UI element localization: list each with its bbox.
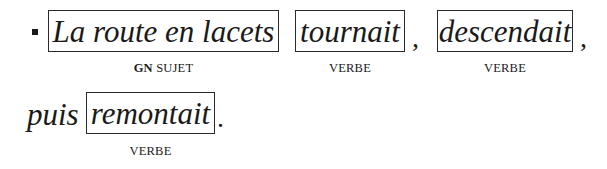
verb-box-remontait: remontait (86, 92, 215, 134)
square-bullet-icon (32, 29, 38, 35)
subject-label: GN SUJET (48, 62, 279, 75)
verb-box-descendait: descendait (437, 10, 573, 52)
verb-label: VERBE (86, 145, 215, 158)
verb-text: remontait (91, 98, 210, 129)
verb-text: tournait (300, 16, 400, 47)
verb-label: VERBE (295, 62, 405, 75)
verb-box-tournait: tournait (295, 10, 405, 52)
verb-label: VERBE (437, 62, 573, 75)
comma: , (580, 24, 587, 52)
subject-text: La route en lacets (53, 16, 275, 47)
subject-box: La route en lacets (48, 10, 279, 52)
comma: , (412, 24, 419, 52)
verb-text: descendait (439, 16, 572, 47)
sujet-label: SUJET (156, 61, 193, 75)
period: . (217, 104, 224, 132)
conjunction-text: puis (27, 99, 79, 130)
gn-label: GN (134, 61, 153, 75)
